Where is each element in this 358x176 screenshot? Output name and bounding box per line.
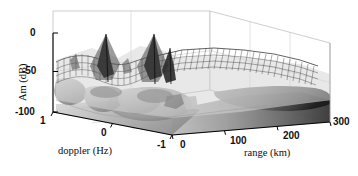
- range-tick-label-200: 200: [283, 131, 299, 141]
- range-tick-label-0: 0: [180, 140, 185, 150]
- range-tick-label-100: 100: [230, 136, 246, 146]
- doppler-tick-1: [51, 112, 53, 116]
- doppler-axis-title: doppler (Hz): [58, 146, 112, 157]
- amplitude-tick-label-0: 0: [30, 28, 35, 38]
- amplitude-tick-label-minus100: -100: [15, 107, 35, 117]
- surface-plot-svg: [0, 0, 358, 176]
- peak-2-floor-shadow: [137, 89, 173, 103]
- range-axis-title: range (km): [244, 148, 290, 159]
- doppler-tick-0: [111, 124, 113, 128]
- amplitude-axis-title: Am (dB): [18, 63, 29, 101]
- doppler-tick-label-1: 1: [40, 116, 45, 126]
- range-tick-200: [277, 126, 278, 130]
- doppler-tick-label-0: 0: [101, 128, 106, 138]
- range-tick-0: [172, 135, 173, 139]
- doppler-tick-label-minus1: -1: [157, 140, 166, 150]
- range-tick-label-300: 300: [333, 117, 349, 127]
- range-tick-300: [330, 122, 331, 126]
- peak-1-floor-shadow: [90, 86, 122, 98]
- figure-canvas: 0 -50 -100 Am (dB) 1 0 -1 doppler (Hz) 0…: [0, 0, 358, 176]
- range-tick-100: [225, 131, 226, 135]
